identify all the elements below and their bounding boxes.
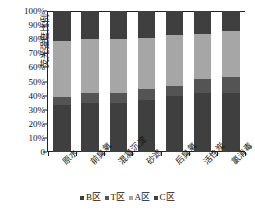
stacked-bar[interactable] [138, 11, 155, 152]
x-label-slot: 后臭氧 [161, 154, 189, 194]
bar-segment-A区 [138, 38, 155, 89]
bar-slot [132, 11, 160, 152]
legend-item[interactable]: T区 [105, 193, 125, 202]
bar-segment-T区 [53, 97, 70, 105]
bar-slot [76, 11, 104, 152]
bar-segment-T区 [81, 93, 98, 103]
stacked-bar[interactable] [81, 11, 98, 152]
bar-segment-C区 [138, 11, 155, 38]
bar-segment-A区 [222, 31, 239, 78]
bar-segment-B区 [110, 103, 127, 152]
stacked-bar[interactable] [110, 11, 127, 152]
bar-segment-T区 [222, 77, 239, 93]
y-tick-mark [43, 137, 47, 138]
x-label-slot: 活性炭 [189, 154, 217, 194]
x-axis-tick-labels: 原水前臭氧混凝沉淀砂滤后臭氧活性炭氯消毒 [48, 154, 245, 194]
bar-segment-C区 [194, 11, 211, 34]
bar-segment-C区 [81, 11, 98, 39]
stacked-bar[interactable] [194, 11, 211, 152]
stacked-bar[interactable] [166, 11, 183, 152]
bar-segment-T区 [138, 89, 155, 100]
y-tick-mark [43, 109, 47, 110]
x-label-slot: 砂滤 [132, 154, 160, 194]
legend-swatch-icon [154, 196, 158, 200]
y-tick-mark [43, 95, 47, 96]
legend-label: T区 [111, 193, 126, 202]
y-tick-mark [43, 123, 47, 124]
x-label-slot: 氯消毒 [217, 154, 245, 194]
stacked-bar[interactable] [222, 11, 239, 152]
y-tick-mark [43, 81, 47, 82]
legend-label: B区 [86, 193, 101, 202]
y-tick-mark [43, 67, 47, 68]
bar-segment-B区 [81, 103, 98, 152]
chart-root: 荧光强度比例 100%90%80%70%60%50%40%30%20%10%0 … [0, 0, 255, 212]
bar-segment-A区 [81, 39, 98, 93]
bar-segment-C区 [166, 11, 183, 35]
bar-slot [104, 11, 132, 152]
bar-segment-T区 [194, 79, 211, 93]
legend-swatch-icon [80, 196, 84, 200]
x-label-slot: 混凝沉淀 [104, 154, 132, 194]
x-label-slot: 原水 [48, 154, 76, 194]
bar-segment-B区 [222, 93, 239, 152]
bar-segment-B区 [194, 93, 211, 152]
x-label-slot: 前臭氧 [76, 154, 104, 194]
bar-segment-A区 [166, 35, 183, 86]
legend-swatch-icon [129, 196, 133, 200]
chart-legend: B区T区A区C区 [0, 193, 255, 202]
legend-item[interactable]: A区 [129, 193, 150, 202]
y-tick-mark [43, 152, 47, 153]
bar-segment-A区 [53, 41, 70, 97]
legend-label: C区 [160, 193, 175, 202]
y-axis-tick-labels: 100%90%80%70%60%50%40%30%20%10%0 [14, 11, 45, 152]
bar-slot [48, 11, 76, 152]
bar-segment-C区 [110, 11, 127, 39]
bar-slot [161, 11, 189, 152]
bar-segment-T区 [110, 93, 127, 103]
y-tick-mark [43, 25, 47, 26]
bar-segment-B区 [166, 96, 183, 152]
legend-item[interactable]: C区 [154, 193, 175, 202]
legend-item[interactable]: B区 [80, 193, 101, 202]
bar-segment-T区 [166, 86, 183, 96]
bar-slot [189, 11, 217, 152]
legend-swatch-icon [105, 196, 109, 200]
bar-segment-B区 [53, 105, 70, 152]
y-tick-mark [43, 39, 47, 40]
bar-segment-C区 [53, 11, 70, 41]
legend-label: A区 [135, 193, 151, 202]
y-tick-mark [43, 53, 47, 54]
bar-segment-A区 [110, 39, 127, 93]
stacked-bar[interactable] [53, 11, 70, 152]
y-tick-mark [43, 11, 47, 12]
bar-slot [217, 11, 245, 152]
bar-group [48, 11, 245, 152]
bar-segment-C区 [222, 11, 239, 31]
bar-segment-A区 [194, 34, 211, 79]
y-tick-label: 100% [24, 7, 45, 16]
